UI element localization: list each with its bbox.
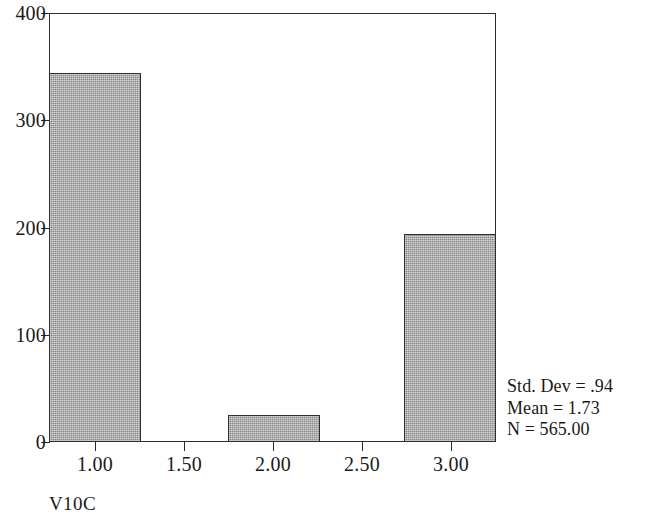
y-axis-label-300: 300 xyxy=(15,110,46,130)
x-tick-1-50 xyxy=(184,442,185,451)
n-text: N = 565.00 xyxy=(507,419,647,441)
x-tick-2-00 xyxy=(273,442,274,451)
y-axis-label-0: 0 xyxy=(36,432,46,452)
bar-2 xyxy=(228,415,320,442)
x-tick-2-50 xyxy=(362,442,363,451)
x-axis-label-2-50: 2.50 xyxy=(317,452,407,476)
bars-layer xyxy=(49,13,496,442)
x-axis-label-2-00: 2.00 xyxy=(228,452,318,476)
y-axis-label-200: 200 xyxy=(15,218,46,238)
x-tick-1-00 xyxy=(95,442,96,451)
mean-text: Mean = 1.73 xyxy=(507,398,647,420)
x-axis-label-3-00: 3.00 xyxy=(406,452,496,476)
y-axis-label-100: 100 xyxy=(15,325,46,345)
x-axis-label-1-00: 1.00 xyxy=(50,452,140,476)
statistics-annotation: Std. Dev = .94 Mean = 1.73 N = 565.00 xyxy=(507,376,647,441)
x-axis-label-1-50: 1.50 xyxy=(139,452,229,476)
bar-1 xyxy=(49,73,141,442)
bar-3 xyxy=(404,234,496,442)
std-dev-text: Std. Dev = .94 xyxy=(507,376,647,398)
x-tick-3-00 xyxy=(451,442,452,451)
x-axis-title: V10C xyxy=(49,493,96,515)
histogram-figure: 400 300 200 100 0 1.00 1.50 2.00 2.50 3.… xyxy=(0,0,647,529)
y-axis-label-400: 400 xyxy=(15,3,46,23)
